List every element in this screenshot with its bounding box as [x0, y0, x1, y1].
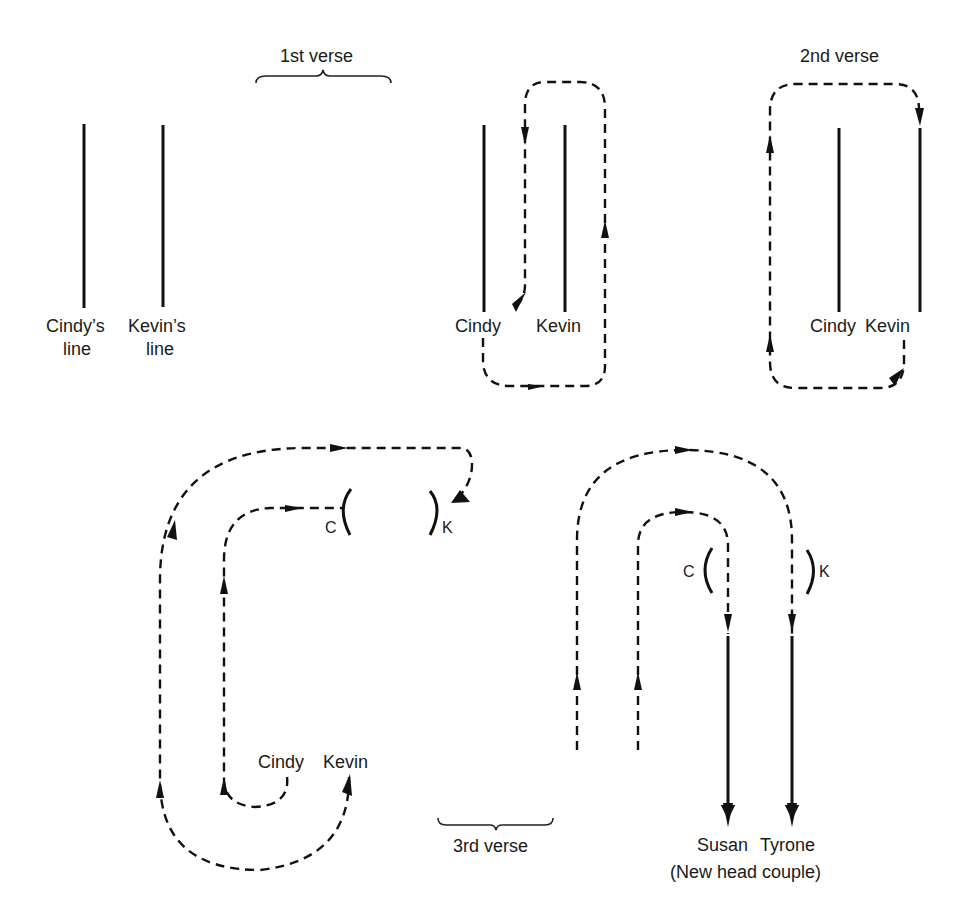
verse-3a-outer-path [160, 448, 472, 870]
arrow-down-icon [788, 614, 796, 632]
verse-3b-inner-path [638, 512, 728, 750]
reel-diagram: Cindy’s line Kevin’s line 1st verse Cind… [0, 0, 975, 920]
verse-3-label: 3rd verse [453, 836, 528, 856]
arrow-up-icon [573, 672, 581, 690]
panel-verse-3a: C K Cindy Kevin [156, 444, 472, 870]
panel-verse-2: 2nd verse Cindy Kevin [766, 46, 924, 388]
arrow-down-left-icon [451, 490, 470, 503]
kevin-position-bracket [430, 491, 437, 535]
panel-verse-1: Cindy Kevin [455, 82, 609, 390]
c-marker: C [325, 519, 337, 536]
arrow-down-icon [342, 774, 352, 796]
verse-1-label: 1st verse [280, 46, 353, 66]
kevin-label: Kevin [865, 316, 910, 336]
cindy-line-label-2: line [63, 339, 91, 359]
cindy-position-bracket [343, 489, 351, 535]
arrow-down-icon [787, 803, 797, 827]
arrow-down-icon [521, 127, 529, 145]
arrow-right-icon [675, 446, 693, 454]
k-marker: K [819, 563, 830, 580]
arrow-up-icon [156, 780, 164, 798]
arrow-right-icon [285, 505, 303, 512]
cindy-label: Cindy [258, 752, 304, 772]
verse-2-path [770, 84, 919, 388]
arrow-right-icon [675, 508, 693, 516]
arrow-up-icon [601, 220, 609, 238]
verse-3-brace [438, 818, 553, 830]
cindy-label: Cindy [810, 316, 856, 336]
arrow-down-icon [723, 803, 733, 827]
verse-1-header: 1st verse [256, 46, 391, 83]
verse-3b-outer-path [577, 450, 792, 750]
verse-3-header: 3rd verse [438, 818, 553, 856]
verse-1-path [483, 82, 605, 386]
panel-starting-lines: Cindy’s line Kevin’s line [46, 124, 186, 359]
kevin-line-label-1: Kevin’s [128, 316, 186, 336]
kevin-label: Kevin [536, 316, 581, 336]
cindy-position-bracket [705, 548, 712, 593]
kevin-label: Kevin [323, 752, 368, 772]
panel-verse-3b: C K Susan Tyrone (New head couple) [573, 446, 830, 882]
kevin-position-bracket [807, 550, 814, 594]
arrow-up-icon [766, 135, 774, 153]
arrow-up-icon [634, 672, 642, 690]
arrow-down-icon [724, 614, 732, 632]
arrow-down-left-icon [512, 292, 526, 312]
kevin-line-label-2: line [146, 339, 174, 359]
arrow-up-icon [766, 334, 774, 352]
arrow-down-icon [915, 108, 924, 126]
c-marker: C [683, 563, 695, 580]
verse-2-label: 2nd verse [800, 46, 879, 66]
k-marker: K [442, 519, 453, 536]
verse-1-brace [256, 70, 391, 83]
arrow-up-icon [220, 777, 228, 795]
arrow-up-icon [220, 576, 228, 594]
arrow-right-icon [330, 444, 348, 452]
new-head-couple-label: (New head couple) [670, 862, 821, 882]
cindy-label: Cindy [455, 316, 501, 336]
susan-label: Susan [697, 835, 748, 855]
tyrone-label: Tyrone [760, 835, 815, 855]
cindy-line-label-1: Cindy’s [46, 316, 105, 336]
